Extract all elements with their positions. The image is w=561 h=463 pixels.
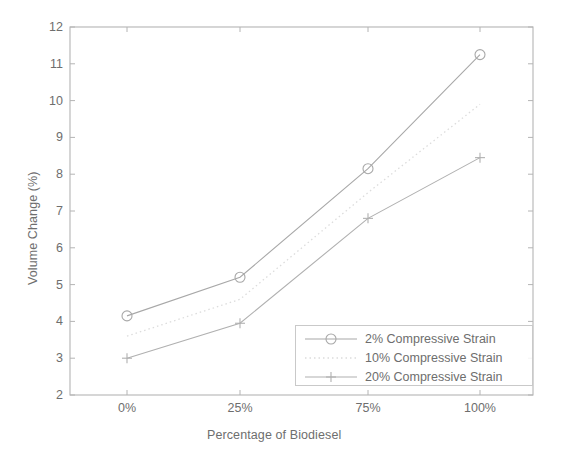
legend-item[interactable]: 10% Compressive Strain bbox=[296, 348, 532, 368]
data-series-group bbox=[122, 50, 485, 364]
legend[interactable]: 2% Compressive Strain10% Compressive Str… bbox=[295, 325, 533, 386]
chart-figure: Volume Change (%) Percentage of Biodiese… bbox=[0, 0, 561, 463]
y-tick-label: 6 bbox=[56, 241, 63, 255]
x-tick-label: 0% bbox=[118, 401, 136, 415]
y-tick-label: 10 bbox=[49, 94, 63, 108]
legend-item[interactable]: 20% Compressive Strain bbox=[296, 367, 532, 387]
y-tick-label: 7 bbox=[56, 204, 63, 218]
legend-line-sample-icon bbox=[303, 350, 359, 366]
legend-item[interactable]: 2% Compressive Strain bbox=[296, 329, 532, 349]
y-tick-label: 3 bbox=[56, 351, 63, 365]
y-tick-label: 12 bbox=[49, 20, 63, 34]
legend-label: 2% Compressive Strain bbox=[365, 332, 496, 346]
y-tick-label: 8 bbox=[56, 167, 63, 181]
legend-label: 10% Compressive Strain bbox=[365, 351, 503, 365]
legend-label: 20% Compressive Strain bbox=[365, 370, 503, 384]
y-tick-label: 9 bbox=[56, 130, 63, 144]
plot-canvas bbox=[0, 0, 561, 463]
x-tick-label: 25% bbox=[227, 401, 252, 415]
y-tick-label: 11 bbox=[50, 57, 63, 71]
y-tick-label: 2 bbox=[56, 388, 63, 402]
legend-line-sample-icon bbox=[303, 369, 359, 385]
x-tick-label: 100% bbox=[464, 401, 496, 415]
y-tick-label: 5 bbox=[56, 278, 63, 292]
legend-line-sample-icon bbox=[303, 331, 359, 347]
x-tick-label: 75% bbox=[355, 401, 380, 415]
series-line bbox=[127, 104, 480, 336]
y-axis-label: Volume Change (%) bbox=[26, 171, 40, 285]
y-tick-label: 4 bbox=[56, 314, 63, 328]
x-axis-label: Percentage of Biodiesel bbox=[207, 428, 341, 442]
series-line bbox=[122, 50, 485, 321]
